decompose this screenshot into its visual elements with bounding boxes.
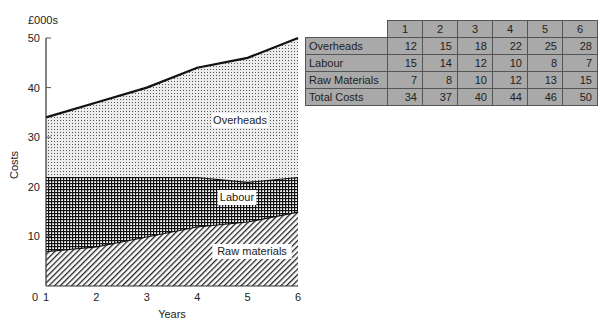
table-cell: 15 [423, 38, 458, 55]
table-cell: 8 [423, 72, 458, 89]
table-cell: 44 [493, 89, 528, 106]
table-row-total: Total Costs 34 37 40 44 46 50 [306, 89, 598, 106]
table-row: Labour 15 14 12 10 8 7 [306, 55, 598, 72]
y-tick-label: 40 [28, 82, 40, 94]
table-cell: 15 [563, 72, 598, 89]
y-tick-label: 30 [28, 131, 40, 143]
table-cell: 7 [388, 72, 423, 89]
y-tick-label: 0 [32, 291, 38, 303]
y-tick-label: 20 [28, 181, 40, 193]
table-cell: 14 [423, 55, 458, 72]
table-cell: 13 [528, 72, 563, 89]
table-header-row: 1 2 3 4 5 6 [306, 21, 598, 38]
table-cell: 28 [563, 38, 598, 55]
table-row: Overheads 12 15 18 22 25 28 [306, 38, 598, 55]
y-tick-label: 50 [28, 32, 40, 44]
table-cell: 10 [458, 72, 493, 89]
table-cell: 25 [528, 38, 563, 55]
area-overheads [46, 38, 298, 182]
year-header: 5 [528, 21, 563, 38]
table-cell: 18 [458, 38, 493, 55]
area-label-overheads: Overheads [212, 113, 268, 128]
table-cell: 7 [563, 55, 598, 72]
table-cell: 37 [423, 89, 458, 106]
table-cell: 12 [493, 72, 528, 89]
table-cell: 40 [458, 89, 493, 106]
table-cell: 34 [388, 89, 423, 106]
cost-table: 1 2 3 4 5 6 Overheads 12 15 18 22 25 28 … [305, 20, 598, 106]
svg-text:Overheads: Overheads [213, 114, 267, 126]
row-label: Raw Materials [306, 72, 388, 89]
year-header: 3 [458, 21, 493, 38]
x-tick-label: 6 [295, 291, 301, 303]
x-tick-label: 1 [43, 291, 49, 303]
year-header: 4 [493, 21, 528, 38]
svg-text:Raw materials: Raw materials [217, 245, 287, 257]
x-axis-ticks: 123456 [43, 291, 301, 303]
table-cell: 15 [388, 55, 423, 72]
x-tick-label: 4 [194, 291, 200, 303]
svg-text:Labour: Labour [220, 191, 255, 203]
y-unit-label: £000s [28, 14, 58, 26]
area-label-labour: Labour [218, 190, 257, 205]
year-header: 6 [563, 21, 598, 38]
x-axis-title: Years [158, 308, 186, 320]
row-label: Total Costs [306, 89, 388, 106]
y-axis-title: Costs [8, 150, 20, 179]
row-label: Overheads [306, 38, 388, 55]
table-cell: 50 [563, 89, 598, 106]
table-cell: 10 [493, 55, 528, 72]
x-tick-label: 3 [144, 291, 150, 303]
table-cell: 12 [388, 38, 423, 55]
stacked-area-chart: 01020304050 123456 £000s Costs Years Ove… [0, 0, 310, 330]
x-tick-label: 2 [93, 291, 99, 303]
table-cell: 22 [493, 38, 528, 55]
year-header: 1 [388, 21, 423, 38]
table-row: Raw Materials 7 8 10 12 13 15 [306, 72, 598, 89]
table-corner [306, 21, 388, 38]
table-cell: 46 [528, 89, 563, 106]
x-tick-label: 5 [245, 291, 251, 303]
table-cell: 12 [458, 55, 493, 72]
y-tick-label: 10 [28, 230, 40, 242]
row-label: Labour [306, 55, 388, 72]
table-cell: 8 [528, 55, 563, 72]
area-label-raw-materials: Raw materials [212, 244, 291, 259]
year-header: 2 [423, 21, 458, 38]
